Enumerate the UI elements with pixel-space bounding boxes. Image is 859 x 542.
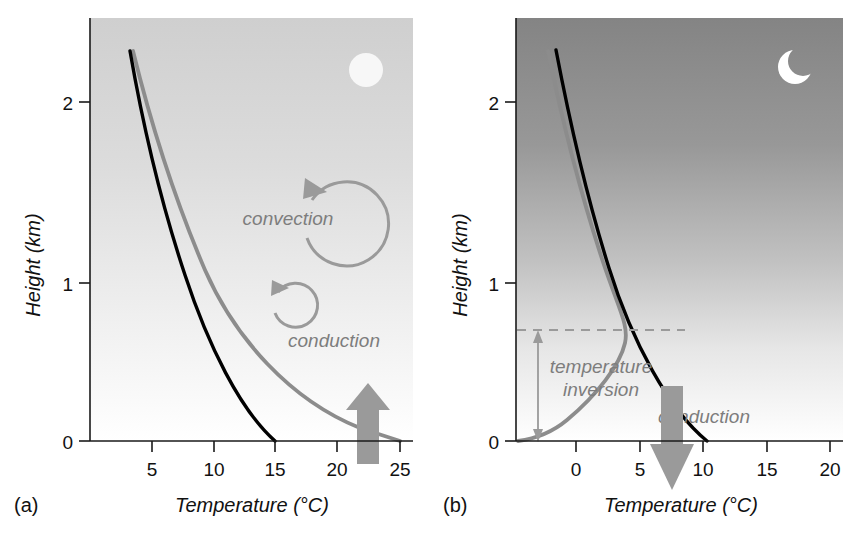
convection-label: convection (243, 208, 334, 229)
sun-icon (349, 53, 383, 87)
moon-icon (769, 20, 849, 100)
panel-a-x-ticklabel-10: 10 (203, 459, 224, 480)
panel-a-y-ticklabel-1: 1 (62, 274, 73, 295)
panel-a-y-axis-title: Height (km) (22, 213, 44, 316)
inversion-label-line1: temperature (550, 356, 652, 377)
inversion-label-line2: inversion (563, 379, 639, 400)
panel-a-x-ticklabel-5: 5 (147, 459, 158, 480)
panel-a-x-ticklabel-25: 25 (389, 459, 410, 480)
panel-a-y-ticklabel-2: 2 (62, 93, 73, 114)
panel-b-x-axis-title: Temperature (°C) (604, 494, 758, 516)
panel-b: temperature inversion conduction 0 1 2 (429, 0, 859, 542)
panel-a-plot: convection conduction 0 1 2 5 1 (0, 0, 430, 542)
panel-a-x-ticklabel-20: 20 (326, 459, 347, 480)
panel-a-letter: (a) (14, 494, 38, 516)
panel-b-plot: temperature inversion conduction 0 1 2 (429, 0, 859, 542)
panel-b-x-ticklabel-10: 10 (692, 459, 713, 480)
panel-b-y-axis-title: Height (km) (449, 213, 471, 316)
figure-root: convection conduction 0 1 2 5 1 (0, 0, 859, 542)
panel-b-x-ticklabel-5: 5 (635, 459, 646, 480)
panel-b-y-ticklabel-2: 2 (488, 93, 499, 114)
panel-b-y-ticklabel-0: 0 (488, 432, 499, 453)
panel-a-y-ticklabel-0: 0 (62, 432, 73, 453)
panel-b-x-ticklabel-0: 0 (571, 459, 582, 480)
panel-b-letter: (b) (443, 494, 467, 516)
conduction-label: conduction (288, 330, 380, 351)
panel-b-x-ticklabel-15: 15 (756, 459, 777, 480)
panel-a: convection conduction 0 1 2 5 1 (0, 0, 430, 542)
panel-b-y-ticklabel-1: 1 (488, 274, 499, 295)
panel-a-x-ticklabel-15: 15 (264, 459, 285, 480)
panel-b-x-ticklabel-20: 20 (819, 459, 840, 480)
panel-a-x-axis-title: Temperature (°C) (175, 494, 329, 516)
